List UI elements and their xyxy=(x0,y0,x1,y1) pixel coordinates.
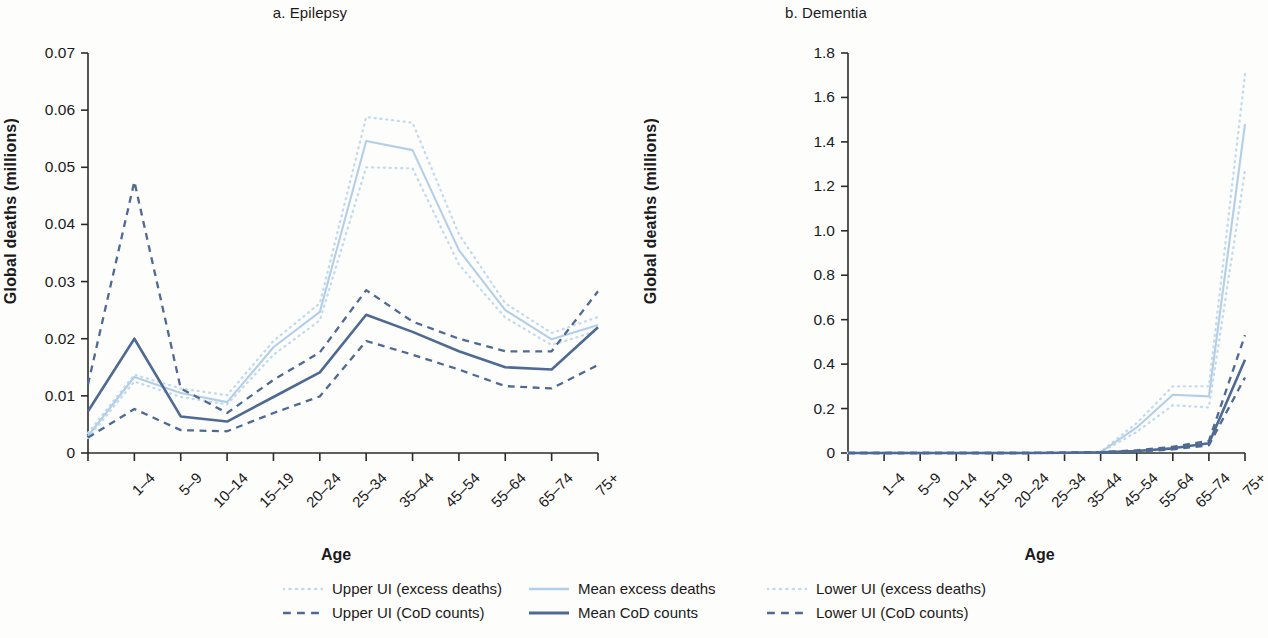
y-tick-label: 0.8 xyxy=(620,266,835,284)
series-line xyxy=(88,117,598,433)
panel-epilepsy: a. Epilepsy Global deaths (millions) Age… xyxy=(0,0,620,570)
legend-item[interactable]: Lower UI (excess deaths) xyxy=(767,578,986,600)
y-tick-label: 0.01 xyxy=(0,387,75,405)
legend-label: Mean excess deaths xyxy=(578,578,716,600)
legend-label: Upper UI (CoD counts) xyxy=(332,602,485,624)
legend-item[interactable]: Mean excess deaths xyxy=(529,578,716,600)
series-line xyxy=(88,167,598,438)
y-tick-label: 0.04 xyxy=(0,215,75,233)
y-tick-label: 0.07 xyxy=(0,44,75,62)
legend-item[interactable]: Upper UI (excess deaths) xyxy=(283,578,502,600)
y-tick-label: 0 xyxy=(0,444,75,462)
series-line xyxy=(848,171,1245,453)
y-tick-label: 1.4 xyxy=(620,133,835,151)
y-tick-label: 1.0 xyxy=(620,222,835,240)
series-line xyxy=(88,182,598,413)
y-tick-label: 0.06 xyxy=(0,101,75,119)
series-line xyxy=(848,335,1245,453)
legend-key-solid xyxy=(529,584,569,594)
legend-label: Upper UI (excess deaths) xyxy=(332,578,502,600)
legend-label: Lower UI (CoD counts) xyxy=(816,602,969,624)
legend-key-dashed xyxy=(283,608,323,618)
y-tick-label: 1.8 xyxy=(620,44,835,62)
y-tick-label: 0.2 xyxy=(620,400,835,418)
legend-item[interactable]: Lower UI (CoD counts) xyxy=(767,602,969,624)
panel-a-plot-area xyxy=(0,0,620,570)
legend-label: Lower UI (excess deaths) xyxy=(816,578,986,600)
y-tick-label: 0.03 xyxy=(0,273,75,291)
legend-key-solid xyxy=(529,608,569,618)
legend-label: Mean CoD counts xyxy=(578,602,698,624)
y-tick-label: 0.02 xyxy=(0,330,75,348)
y-tick-label: 1.6 xyxy=(620,88,835,106)
legend-key-dotted xyxy=(767,584,807,594)
y-tick-label: 0.6 xyxy=(620,311,835,329)
y-tick-label: 0 xyxy=(620,444,835,462)
legend-key-dotted xyxy=(283,584,323,594)
y-tick-label: 0.4 xyxy=(620,355,835,373)
y-tick-label: 0.05 xyxy=(0,158,75,176)
series-line xyxy=(848,377,1245,453)
legend-item[interactable]: Mean CoD counts xyxy=(529,602,698,624)
legend-key-dashed xyxy=(767,608,807,618)
y-tick-label: 1.2 xyxy=(620,177,835,195)
chart-legend: Upper UI (excess deaths)Mean excess deat… xyxy=(0,578,1230,638)
legend-item[interactable]: Upper UI (CoD counts) xyxy=(283,602,485,624)
panel-dementia: b. Dementia Global deaths (millions) Age… xyxy=(620,0,1230,570)
series-line xyxy=(848,124,1245,453)
